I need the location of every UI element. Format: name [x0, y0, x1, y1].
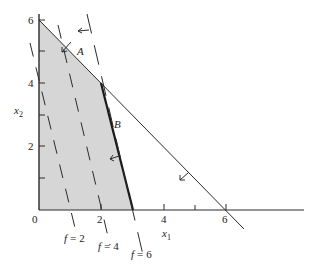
constraint-label-a: A — [76, 45, 84, 57]
contour-label-f2: f=2 — [64, 232, 85, 244]
y-tick-label: 6 — [28, 14, 34, 26]
contour-label-f6: f=6 — [131, 248, 152, 260]
contour-label-f4: f=4 — [98, 240, 119, 252]
lp-diagram: 6 4 2 0 2 4 6 x2 x1 A B f=2 f=4 f=6 — [0, 0, 315, 276]
y-tick-label: 4 — [28, 77, 34, 89]
feasible-region — [39, 20, 133, 210]
diagram-svg: 6 4 2 0 2 4 6 x2 x1 A B f=2 f=4 f=6 — [0, 0, 315, 276]
x-tick-label: 2 — [97, 213, 103, 225]
constraint-label-b: B — [114, 118, 121, 130]
x-axis-label: x1 — [161, 227, 171, 242]
origin-label: 0 — [32, 213, 38, 225]
x-tick-label: 4 — [161, 213, 167, 225]
y-axis-label: x2 — [13, 104, 23, 119]
arrow-icon-diagonal — [180, 173, 188, 180]
y-tick-label: 2 — [28, 140, 34, 152]
arrow-icon-a-top — [78, 28, 89, 33]
x-tick-label: 6 — [222, 213, 228, 225]
